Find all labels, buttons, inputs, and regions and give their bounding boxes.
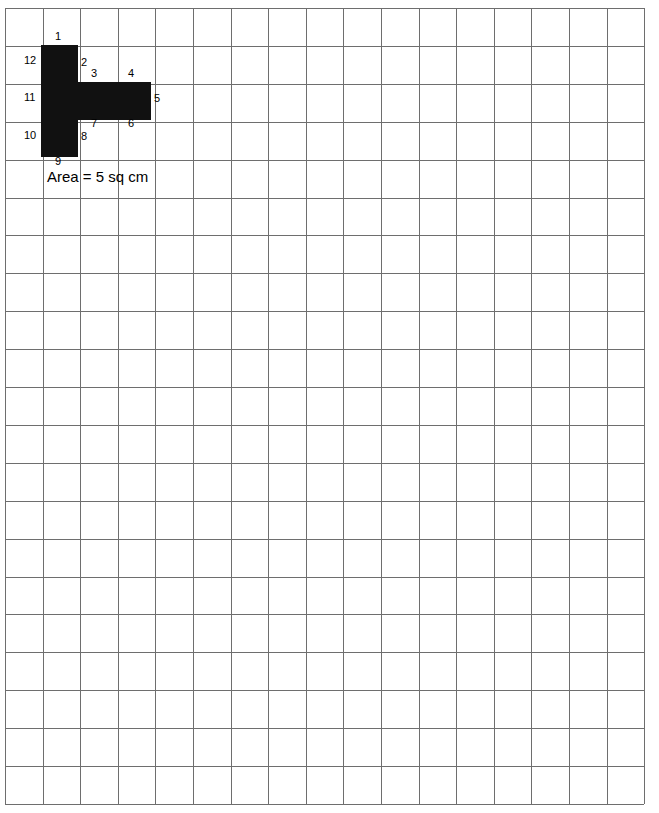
grid-canvas (0, 0, 659, 813)
vertex-label-9: 9 (55, 156, 61, 167)
vertex-label-2: 2 (81, 57, 87, 68)
vertex-label-6: 6 (128, 118, 134, 129)
grid-lines (5, 8, 645, 805)
vertex-label-12: 12 (24, 55, 36, 66)
vertex-label-1: 1 (55, 31, 61, 42)
area-caption: Area = 5 sq cm (47, 168, 148, 185)
vertex-label-4: 4 (128, 68, 134, 79)
shape-segment (41, 45, 78, 157)
vertex-label-11: 11 (24, 92, 35, 103)
vertex-label-8: 8 (81, 131, 87, 142)
shaded-shape (41, 45, 151, 157)
vertex-label-3: 3 (91, 68, 97, 79)
area-grid-worksheet: 123456789121110 Area = 5 sq cm (0, 0, 659, 813)
vertex-label-7: 7 (91, 118, 97, 129)
vertex-label-10: 10 (24, 130, 36, 141)
shape-segment (78, 82, 151, 120)
vertex-label-5: 5 (154, 93, 160, 104)
